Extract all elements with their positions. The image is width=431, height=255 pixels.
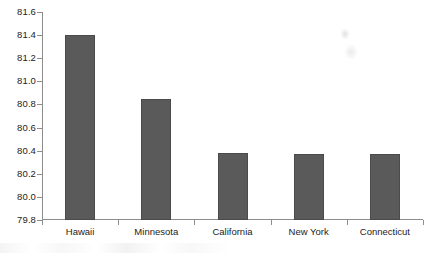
y-axis-tick-label: 81.6 [4,7,36,17]
bar-chart-figure: 81.681.481.281.080.880.680.480.280.079.8… [0,0,431,255]
chart-plot-area: 81.681.481.281.080.880.680.480.280.079.8… [0,0,431,255]
y-axis-tick-mark [37,58,42,59]
x-axis-tick-mark [347,220,348,225]
y-axis-tick-mark [37,35,42,36]
y-axis-tick-mark [37,12,42,13]
y-axis-tick-label: 81.2 [4,53,36,63]
x-axis-tick-label: Connecticut [347,226,423,238]
y-axis-tick-label: 81.0 [4,76,36,86]
y-axis-tick-label: 80.8 [4,99,36,109]
x-axis-tick-mark [118,220,119,225]
bar [218,153,248,220]
bar [141,99,171,220]
y-axis-tick-mark [37,128,42,129]
y-axis-tick-mark [37,174,42,175]
x-axis-tick-mark [42,220,43,225]
y-axis-tick-label: 80.4 [4,146,36,156]
bar [65,35,95,220]
x-axis-tick-label: New York [271,226,347,238]
x-axis-tick-mark [271,220,272,225]
x-axis-tick-label: Minnesota [118,226,194,238]
x-axis-tick-mark [423,220,424,225]
x-axis-labels: HawaiiMinnesotaCaliforniaNew YorkConnect… [42,226,423,242]
y-axis-tick-label: 79.8 [4,215,36,225]
y-axis-tick-mark [37,104,42,105]
y-axis-tick-label: 80.0 [4,192,36,202]
x-axis-tick-mark [194,220,195,225]
y-axis-tick-mark [37,197,42,198]
x-axis-tick-label: Hawaii [42,226,118,238]
y-axis-tick-label: 80.2 [4,169,36,179]
y-axis-tick-mark [37,81,42,82]
y-axis-tick-label: 80.6 [4,123,36,133]
x-axis-tick-label: California [194,226,270,238]
bar [294,154,324,220]
bar [370,154,400,220]
y-axis-tick-label: 81.4 [4,30,36,40]
y-axis-labels: 81.681.481.281.080.880.680.480.280.079.8 [2,0,36,255]
y-axis-tick-mark [37,151,42,152]
bar-series [42,12,423,220]
